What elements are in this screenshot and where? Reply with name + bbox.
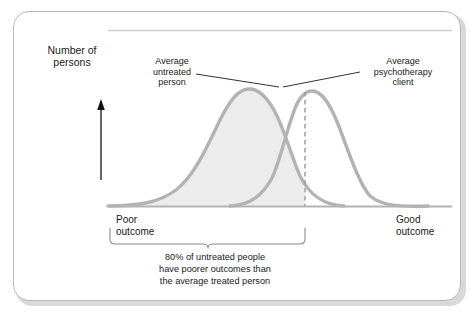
y-axis-label: Number of persons [26,44,118,69]
leader-line-client [283,72,360,87]
leader-line-untreated [196,74,279,87]
x-axis-label-poor-outcome: Poor outcome [116,214,194,238]
y-axis-arrow [97,99,105,180]
annotation-average-untreated-person: Average untreated person [136,56,208,88]
x-axis-label-good-outcome: Good outcome [396,214,466,238]
annotation-average-psychotherapy-client: Average psychotherapy client [360,56,446,88]
figure-root: Number of persons Average untreated pers… [0,0,475,314]
figure-caption: 80% of untreated people have poorer outc… [120,252,310,288]
